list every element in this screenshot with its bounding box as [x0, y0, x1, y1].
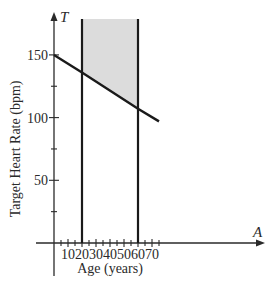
y-axis: 50100150 — [27, 12, 59, 276]
y-axis-title: Target Heart Rate (bpm) — [8, 80, 24, 217]
y-tick-label: 50 — [34, 173, 48, 188]
x-tick-label: 10 — [61, 247, 75, 262]
y-tick-label: 100 — [27, 111, 48, 126]
y-axis-arrow-icon — [51, 12, 58, 21]
x-tick-label: 50 — [117, 247, 131, 262]
y-tick-label: 150 — [27, 48, 48, 63]
x-axis-title: Age (years) — [77, 261, 143, 277]
shaded-region — [82, 19, 138, 109]
x-tick-label: 70 — [145, 247, 159, 262]
x-tick-label: 30 — [89, 247, 103, 262]
x-axis-variable: A — [252, 224, 263, 240]
x-axis: 10203040506070 — [36, 239, 265, 262]
x-tick-label: 60 — [131, 247, 145, 262]
x-axis-arrow-icon — [256, 240, 265, 247]
x-tick-label: 40 — [103, 247, 117, 262]
y-axis-variable: T — [60, 9, 70, 25]
x-tick-label: 20 — [75, 247, 89, 262]
chart: 50100150 10203040506070 T A Age (years) … — [0, 0, 273, 291]
